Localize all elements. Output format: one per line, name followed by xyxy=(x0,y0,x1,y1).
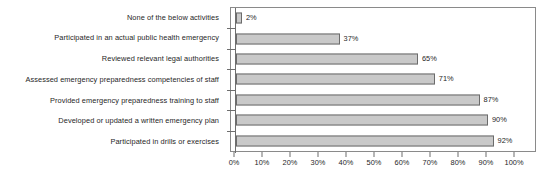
x-axis-tick xyxy=(514,152,515,157)
bar-row: 87% xyxy=(231,90,535,110)
bar-value-label: 90% xyxy=(492,117,507,124)
category-label: Developed or updated a written emergency… xyxy=(0,111,225,132)
x-axis-tick xyxy=(234,152,235,157)
bar-value-label: 2% xyxy=(246,15,257,22)
value-axis: 0%10%20%30%40%50%60%70%80%90%100% xyxy=(234,152,514,176)
x-axis-tick xyxy=(346,152,347,157)
x-axis-tick-label: 90% xyxy=(479,159,494,166)
bar xyxy=(236,94,480,105)
x-axis-tick-label: 80% xyxy=(451,159,466,166)
x-axis-tick xyxy=(402,152,403,157)
category-label: Participated in drills or exercises xyxy=(0,131,225,152)
bar xyxy=(236,54,418,65)
category-axis-labels: None of the below activities Participate… xyxy=(0,7,225,152)
x-axis-tick-label: 100% xyxy=(505,159,524,166)
category-label: Participated in an actual public health … xyxy=(0,28,225,49)
x-axis-tick-label: 10% xyxy=(255,159,270,166)
plot-area: 2% 37% 65% 71% 87% 90% xyxy=(230,7,536,152)
x-axis-tick-label: 60% xyxy=(395,159,410,166)
category-label: Provided emergency preparedness training… xyxy=(0,90,225,111)
bar xyxy=(236,135,494,146)
bar-row: 65% xyxy=(231,49,535,69)
x-axis-tick-label: 70% xyxy=(423,159,438,166)
x-axis-tick xyxy=(262,152,263,157)
category-label: Reviewed relevant legal authorities xyxy=(0,48,225,69)
x-axis-tick-label: 40% xyxy=(339,159,354,166)
bar-row: 37% xyxy=(231,28,535,48)
bar xyxy=(236,13,242,24)
x-axis-tick xyxy=(318,152,319,157)
x-axis-tick xyxy=(290,152,291,157)
bar-row: 71% xyxy=(231,69,535,89)
bar xyxy=(236,115,488,126)
bar-chart: None of the below activities Participate… xyxy=(0,0,556,178)
x-axis-tick-label: 50% xyxy=(367,159,382,166)
category-label: Assessed emergency preparedness competen… xyxy=(0,69,225,90)
x-axis-tick xyxy=(486,152,487,157)
bar-value-label: 87% xyxy=(484,96,499,103)
category-label: None of the below activities xyxy=(0,7,225,28)
bar xyxy=(236,74,435,85)
bar-value-label: 71% xyxy=(439,76,454,83)
x-axis-tick xyxy=(374,152,375,157)
bar-value-label: 65% xyxy=(422,55,437,62)
bar-rows: 2% 37% 65% 71% 87% 90% xyxy=(231,8,535,151)
bar-row: 92% xyxy=(231,131,535,151)
bar xyxy=(236,33,340,44)
bar-value-label: 37% xyxy=(344,35,359,42)
x-axis-tick xyxy=(458,152,459,157)
x-axis-tick xyxy=(430,152,431,157)
bar-row: 90% xyxy=(231,110,535,130)
x-axis-tick-label: 20% xyxy=(283,159,298,166)
bar-row: 2% xyxy=(231,8,535,28)
x-axis-tick-label: 30% xyxy=(311,159,326,166)
x-axis-tick-label: 0% xyxy=(229,159,240,166)
bar-value-label: 92% xyxy=(498,137,513,144)
